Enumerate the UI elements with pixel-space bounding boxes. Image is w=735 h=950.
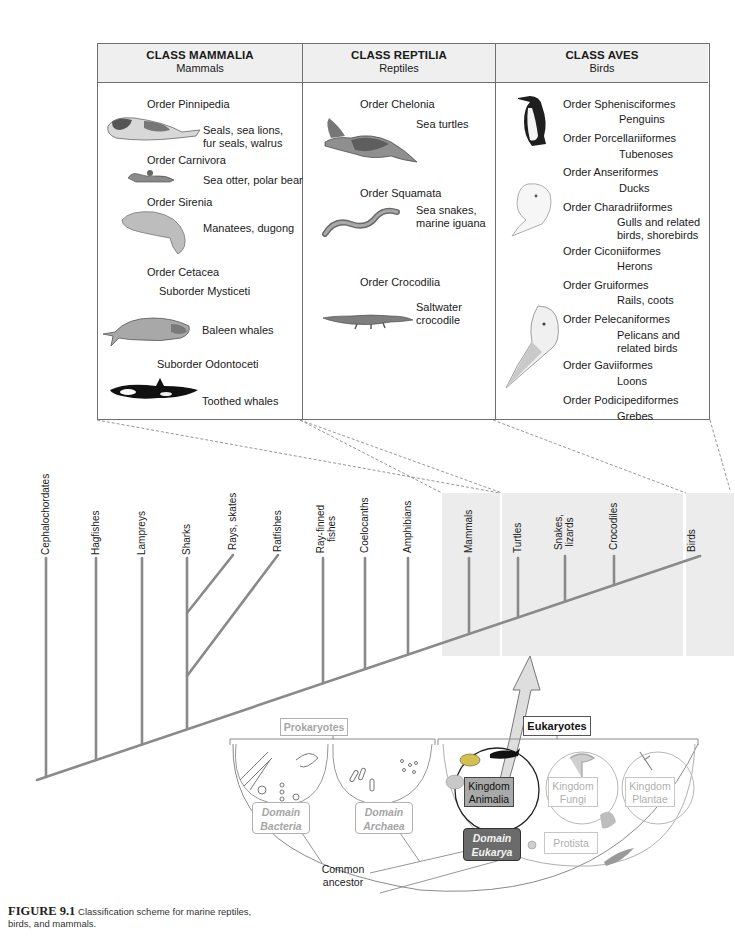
taxon-label: Birds [686,529,697,552]
taxon-label: Hagfishes [90,511,101,555]
figure-label: FIGURE 9.1 [8,904,75,918]
taxon-label: Ray-finned fishes [315,503,337,555]
taxon-label: Amphibians [402,501,413,553]
bacteria-illustration [240,752,318,801]
eukaryotes-label: Eukaryotes [523,716,591,736]
taxon-label: Crocodiles [608,503,619,550]
taxon-label: Snakes, lizards [553,511,575,553]
common-ancestor-label: Common ancestor [318,863,368,889]
fish-icon [460,754,480,766]
kingdom-plantae-line2: Plantae [626,793,674,806]
prokaryotes-label: Prokaryotes [280,718,348,736]
domain-bacteria-line1: Domain [253,805,309,819]
domain-archaea-line2: Archaea [356,819,412,833]
kingdom-fungi-line1: Kingdom [549,780,597,793]
domain-bacteria-line2: Bacteria [253,819,309,833]
mushroom-icon [570,754,594,778]
domain-bacteria-box: Domain Bacteria [252,802,310,834]
domain-archaea-box: Domain Archaea [355,802,413,834]
common-ancestor-line2: ancestor [318,876,368,889]
kingdom-animalia-line2: Animalia [465,793,513,806]
figure-caption: FIGURE 9.1 Classification scheme for mar… [8,905,268,930]
common-ancestor-line1: Common [318,863,368,876]
taxon-label: Lampreys [136,511,147,555]
kingdom-fungi-box: Kingdom Fungi [548,777,598,807]
domain-eukarya-line1: Domain [464,831,520,845]
taxon-label: Rays, skates [227,493,238,550]
taxon-label: Ratfishes [272,510,283,552]
plant-icon [640,752,652,770]
dashed-connector-lines [97,420,730,493]
taxon-label: Turtles [512,523,523,553]
domain-eukarya-box: Domain Eukarya [463,828,521,861]
kingdom-animalia-box: Kingdom Animalia [464,777,514,807]
kingdom-fungi-line2: Fungi [549,793,597,806]
kingdom-animalia-line1: Kingdom [465,780,513,793]
kingdom-plantae-box: Kingdom Plantae [625,777,675,807]
protista-box: Protista [544,832,598,854]
taxon-label: Coelocanths [359,497,370,553]
taxon-label: Mammals [463,510,474,553]
taxon-label: Cephalochordates [40,474,51,555]
tree-branches [37,555,700,780]
domain-archaea-line1: Domain [356,805,412,819]
seaweed-icon [600,812,616,829]
domain-eukarya-line2: Eukarya [464,845,520,859]
kingdom-plantae-line1: Kingdom [626,780,674,793]
taxon-label: Sharks [181,524,192,555]
archaea-illustration [349,760,417,792]
